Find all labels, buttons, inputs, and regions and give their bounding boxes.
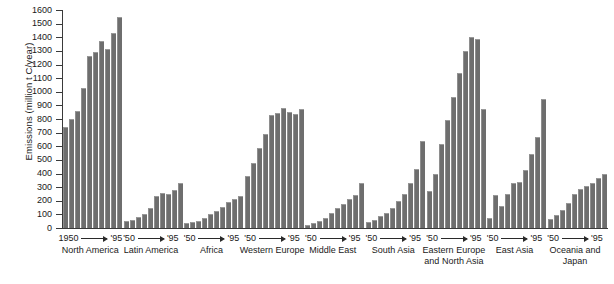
- x-range-start: '50: [487, 233, 499, 244]
- x-group-caption: '50'95Latin America: [118, 233, 185, 256]
- x-range-start: '50: [426, 233, 438, 244]
- y-tick-label: 800: [0, 115, 52, 124]
- bar: [469, 37, 474, 228]
- y-tick-label: 900: [0, 101, 52, 110]
- bar: [402, 194, 407, 228]
- emissions-bar-chart: Emissions (million t C/year) 01002003004…: [0, 0, 614, 284]
- x-group-caption: '50'95Middle East: [299, 233, 366, 256]
- bar: [463, 51, 468, 228]
- x-group-name: Africa: [178, 245, 245, 256]
- y-tick-mark: [56, 51, 62, 52]
- bar: [353, 195, 358, 228]
- plot-area: [63, 10, 608, 228]
- y-tick-mark: [56, 37, 62, 38]
- y-tick-mark: [56, 187, 62, 188]
- y-tick-mark: [56, 133, 62, 134]
- y-tick-mark: [56, 214, 62, 215]
- bar: [263, 134, 268, 228]
- bar: [238, 196, 243, 228]
- bar: [475, 39, 480, 228]
- bar: [93, 52, 98, 228]
- bar: [602, 174, 607, 229]
- bar: [590, 183, 595, 228]
- y-tick-mark: [56, 174, 62, 175]
- arrow-right-icon: [81, 238, 107, 239]
- bar: [299, 109, 304, 228]
- bars: [366, 10, 425, 228]
- bar: [505, 194, 510, 228]
- bar: [493, 195, 498, 228]
- x-group-name: Eastern Europe and North Asia: [421, 245, 488, 267]
- y-tick-mark: [56, 160, 62, 161]
- y-tick-label: 400: [0, 169, 52, 178]
- x-range-end: '95: [167, 233, 179, 244]
- bar: [99, 41, 104, 228]
- arrow-right-icon: [320, 238, 346, 239]
- bar: [257, 148, 262, 228]
- y-tick-mark: [56, 146, 62, 147]
- x-range-start: '50: [366, 233, 378, 244]
- bar: [529, 154, 534, 228]
- bar: [596, 178, 601, 228]
- y-tick-label: 600: [0, 142, 52, 151]
- bar: [548, 219, 553, 228]
- y-tick-label: 1200: [0, 60, 52, 69]
- y-tick-mark: [56, 228, 62, 229]
- bar: [408, 183, 413, 228]
- bar: [487, 218, 492, 228]
- bar: [208, 214, 213, 228]
- x-range-end: '95: [409, 233, 421, 244]
- bar: [572, 194, 577, 228]
- y-tick-label: 1500: [0, 19, 52, 28]
- bar: [414, 169, 419, 228]
- bar: [87, 56, 92, 228]
- x-range-start: '50: [547, 233, 559, 244]
- bar: [433, 174, 438, 229]
- bar: [202, 218, 207, 228]
- y-tick-label: 1300: [0, 46, 52, 55]
- bar: [317, 221, 322, 228]
- bar: [184, 223, 189, 228]
- x-range-start: '50: [184, 233, 196, 244]
- bar: [305, 225, 310, 228]
- bar: [578, 189, 583, 228]
- y-tick-mark: [56, 105, 62, 106]
- bar: [160, 193, 165, 228]
- bar: [117, 17, 122, 228]
- bar: [390, 208, 395, 228]
- bar: [172, 190, 177, 228]
- y-tick-label: 1000: [0, 87, 52, 96]
- y-tick-mark: [56, 65, 62, 66]
- bar: [427, 191, 432, 228]
- bar: [154, 196, 159, 228]
- x-group-caption: '50'95Western Europe: [239, 233, 306, 256]
- x-range-row: '50'95: [118, 233, 185, 244]
- bar: [372, 220, 377, 228]
- arrow-right-icon: [562, 238, 588, 239]
- bar: [445, 120, 450, 228]
- x-range-start: 1950: [58, 233, 78, 244]
- bar: [359, 183, 364, 228]
- x-group-name: Middle East: [299, 245, 366, 256]
- bar: [111, 33, 116, 228]
- bar: [329, 213, 334, 228]
- bar: [63, 127, 68, 228]
- bars: [184, 10, 243, 228]
- y-tick-label: 500: [0, 155, 52, 164]
- x-range-row: 1950'95: [57, 233, 124, 244]
- bar: [347, 199, 352, 228]
- bars: [245, 10, 304, 228]
- bar: [311, 223, 316, 228]
- x-group-name: East Asia: [481, 245, 548, 256]
- y-tick-label: 1100: [0, 74, 52, 83]
- y-tick-mark: [56, 24, 62, 25]
- y-tick-label: 300: [0, 183, 52, 192]
- x-range-start: '50: [244, 233, 256, 244]
- x-group-name: Oceania and Japan: [542, 245, 609, 267]
- x-range-row: '50'95: [178, 233, 245, 244]
- x-axis-line: [62, 228, 608, 229]
- bar: [335, 208, 340, 228]
- x-group-caption: 1950'95North America: [57, 233, 124, 256]
- arrow-right-icon: [138, 238, 164, 239]
- bar: [566, 203, 571, 228]
